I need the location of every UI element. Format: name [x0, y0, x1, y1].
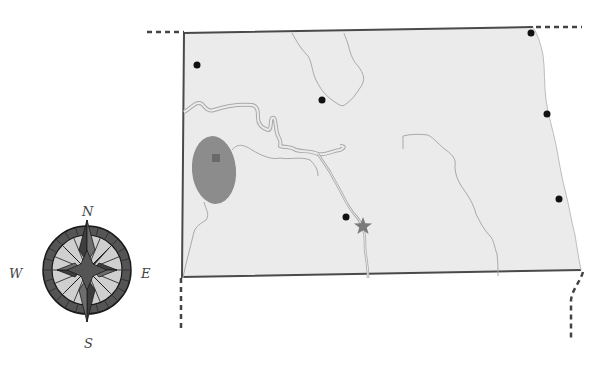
city-dot-north-central [319, 97, 326, 104]
compass-label-south: S [84, 336, 93, 351]
city-dot-northeast-corner [528, 30, 535, 37]
compass-rose-icon [43, 220, 131, 322]
dashed-border-southeast [571, 272, 583, 340]
map-figure: N S E W [0, 0, 596, 368]
compass-label-west: W [9, 266, 24, 281]
compass-label-east: E [140, 266, 151, 281]
highlight-square [212, 154, 220, 162]
city-dot-northwest [194, 62, 201, 69]
city-dot-central [343, 214, 350, 221]
compass-label-north: N [81, 204, 94, 219]
city-dot-southeast [556, 196, 563, 203]
state-land [182, 27, 581, 277]
city-dot-east [544, 111, 551, 118]
